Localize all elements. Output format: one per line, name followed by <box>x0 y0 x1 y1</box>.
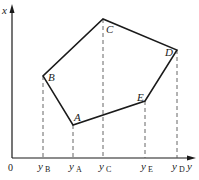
vertex-label-c: C <box>106 23 114 35</box>
tick-label-y: y <box>171 160 177 172</box>
tick-label-y: y <box>98 160 104 172</box>
tick-label-ye: y E <box>140 160 153 174</box>
vertex-label-d: D <box>164 46 173 58</box>
vertex-label-a: A <box>73 111 81 123</box>
tick-label-sub: E <box>148 165 153 174</box>
tick-label-ya: y A <box>68 160 82 174</box>
tick-label-y: y <box>68 160 74 172</box>
vertical-axis-label: x <box>1 4 7 16</box>
vertex-label-b: B <box>48 71 55 83</box>
tick-label-sub: A <box>76 165 82 174</box>
tick-label-sub: B <box>45 165 50 174</box>
tick-label-sub: D <box>179 165 185 174</box>
tick-label-yc: y C <box>98 160 111 174</box>
horizontal-axis-label: y <box>186 160 192 172</box>
tick-label-yb: y B <box>37 160 50 174</box>
origin-label: 0 <box>8 162 13 173</box>
tick-label-sub: C <box>106 165 111 174</box>
tick-label-y: y <box>140 160 146 172</box>
projection-lines <box>43 19 177 158</box>
tick-label-y: y <box>37 160 43 172</box>
polygon-projection-diagram: x y 0 A B C D E y B y A y C y E y D <box>0 0 199 180</box>
vertical-axis-arrow-icon <box>10 4 15 13</box>
vertex-label-e: E <box>136 91 144 103</box>
tick-label-yd: y D <box>171 160 185 174</box>
